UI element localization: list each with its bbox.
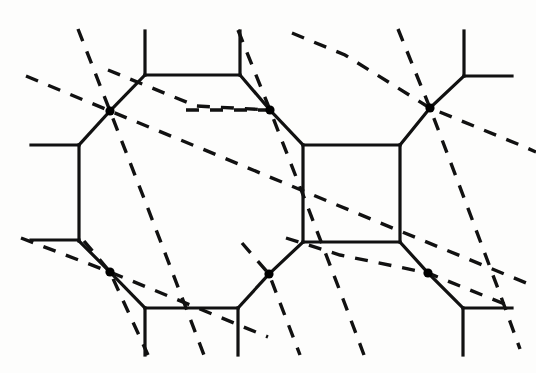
vertex-top-center [265,105,274,114]
lattice-figure [0,0,536,373]
vertex-bottom-center [264,269,273,278]
vertex-bottom-right [423,268,432,277]
vertex-top-left [105,106,114,115]
vertex-bottom-left [105,267,114,276]
lattice-canvas [0,0,536,373]
vertex-top-right [425,103,434,112]
